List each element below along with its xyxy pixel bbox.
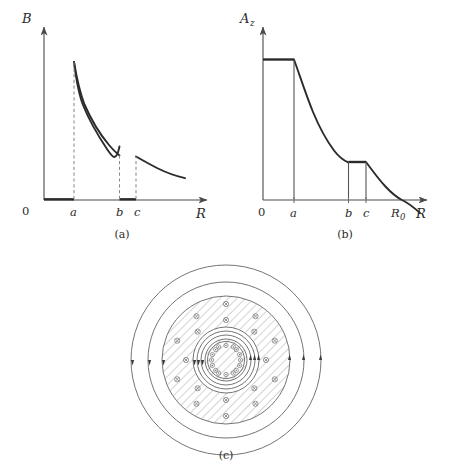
panel-a-y-axis-label: B	[21, 11, 32, 26]
panel-a-curve-dielectric-main	[74, 62, 120, 156]
panel-a-curve-dielectric	[74, 62, 120, 157]
panel-a-tick-c: c	[134, 205, 141, 219]
panel-b-origin-label: 0	[258, 205, 265, 219]
panel-a: B R 0 a b c (a)	[21, 11, 207, 241]
panel-b-tick-c: c	[363, 206, 370, 220]
panel-b-caption: (b)	[337, 228, 353, 241]
arrow-right-2	[253, 355, 256, 360]
panel-a-x-axis-label: R	[195, 206, 206, 221]
panel-b-tick-R0: R	[390, 206, 400, 220]
panel-a-tick-b: b	[116, 205, 123, 219]
panel-a-curve-outside	[136, 157, 185, 179]
panel-a-origin-label: 0	[22, 204, 29, 218]
panel-c: (c)	[131, 265, 322, 462]
panel-b-tick-R0-sub: 0	[400, 212, 406, 222]
panel-c-caption: (c)	[219, 449, 234, 462]
arrow-right-1	[249, 355, 252, 360]
figure-canvas: B R 0 a b c (a) A z R	[0, 0, 450, 467]
arrow-right-5	[302, 355, 305, 360]
panel-b-y-axis-label: A	[239, 11, 249, 26]
panel-b-tick-a: a	[290, 206, 297, 220]
arrow-right-6	[319, 355, 322, 360]
panel-a-caption: (a)	[114, 228, 129, 241]
physics-figure: B R 0 a b c (a) A z R	[0, 0, 450, 467]
panel-b-tick-b: b	[345, 206, 352, 220]
panel-b: A z R 0 a b c R 0 (b)	[239, 11, 427, 241]
panel-b-y-axis-sublabel: z	[249, 18, 255, 28]
panel-a-tick-a: a	[70, 205, 77, 219]
panel-b-curve-log-decay	[294, 60, 349, 163]
